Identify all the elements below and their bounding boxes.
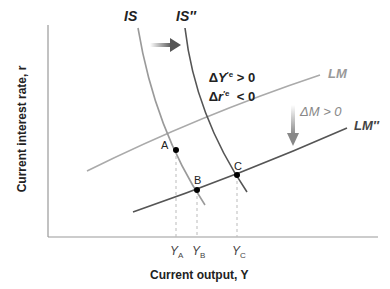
tick-yb-var: Y: [192, 244, 200, 258]
is-shift-arrow: [150, 38, 181, 52]
tick-yc-sub: C: [240, 251, 246, 260]
tick-ya-var: Y: [170, 244, 178, 258]
tick-yb: YB: [192, 244, 205, 260]
y-axis-label: Current interest rate, r: [15, 49, 29, 209]
point-a-label: A: [161, 139, 168, 151]
point-c: [234, 172, 240, 178]
lm-shift-arrow: [287, 105, 299, 146]
x-axis-label: Current output, Y: [150, 268, 248, 282]
point-b: [194, 187, 200, 193]
tick-yb-sub: B: [200, 251, 205, 260]
lm2-label: LM″: [354, 118, 379, 133]
tick-ya-sub: A: [178, 251, 183, 260]
is2-label: IS″: [176, 8, 196, 24]
delta-r-annotation: Δr′e < 0: [202, 74, 255, 104]
lm-label: LM: [328, 66, 347, 81]
point-b-label: B: [194, 174, 201, 186]
delta-m-annotation: ΔM > 0: [300, 104, 342, 119]
tick-yc-var: Y: [232, 244, 240, 258]
r-relation: < 0: [230, 89, 256, 104]
tick-ya: YA: [170, 244, 183, 260]
point-a: [173, 147, 179, 153]
delta-symbol: Δ: [209, 89, 218, 104]
tick-yc: YC: [232, 244, 246, 260]
point-c-label: C: [234, 160, 242, 172]
is-label: IS: [124, 8, 137, 24]
